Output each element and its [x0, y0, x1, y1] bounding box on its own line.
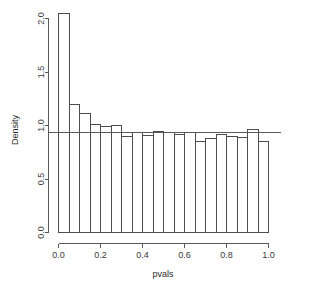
x-axis-tick-label: 0.0 [52, 250, 65, 260]
histogram-bar [195, 142, 206, 233]
histogram-bar [111, 126, 122, 233]
histogram-bar [122, 136, 133, 232]
y-axis-tick-label: 2.0 [36, 12, 46, 25]
histogram-bar [237, 137, 248, 232]
x-axis-tick-label: 0.8 [220, 250, 233, 260]
histogram-bar [90, 124, 101, 232]
x-axis-title: pvals [152, 269, 174, 279]
histogram-bar [164, 133, 175, 233]
x-axis-tick-label: 0.2 [94, 250, 107, 260]
x-axis-tick-label: 1.0 [262, 250, 275, 260]
y-axis-tick-label: 0.5 [36, 173, 46, 186]
histogram-bar [174, 134, 185, 232]
histogram-bar [258, 142, 269, 233]
histogram-bar [101, 127, 112, 233]
histogram-bar [185, 133, 196, 233]
y-axis-title: Density [10, 114, 20, 145]
x-axis-tick-label: 0.4 [136, 250, 149, 260]
histogram-bar [248, 130, 259, 233]
y-axis-tick-label: 1.0 [36, 119, 46, 132]
histogram-bar [132, 133, 143, 233]
histogram-bar [69, 104, 80, 232]
histogram-plot-panel: 0.00.51.01.52.0 0.00.20.40.60.81.0 Densi… [0, 0, 318, 292]
y-axis-tick-label: 1.5 [36, 66, 46, 79]
histogram-bar [206, 138, 217, 232]
histogram-bar [59, 13, 70, 232]
histogram-bar [80, 114, 91, 233]
histogram-canvas: 0.00.51.01.52.0 0.00.20.40.60.81.0 Densi… [0, 0, 318, 292]
histogram-bar [216, 134, 227, 232]
histogram-bar [227, 136, 238, 232]
histogram-bar [143, 135, 154, 232]
x-axis-tick-label: 0.6 [178, 250, 191, 260]
histogram-bar [153, 132, 164, 233]
y-axis-tick-label: 0.0 [36, 226, 46, 239]
